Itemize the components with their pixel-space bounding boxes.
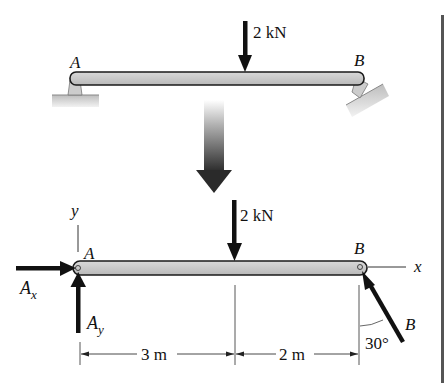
page-edge-bar — [441, 15, 444, 383]
axis-y-label: y — [69, 201, 79, 220]
top-beam — [70, 72, 364, 85]
axis-x-label: x — [413, 257, 422, 276]
reaction-ay-arrow-icon — [71, 272, 87, 333]
reaction-b-label: B — [405, 315, 416, 334]
bottom-diagram: y x A B 2 kN Ax — [16, 200, 422, 365]
bottom-load-label: 2 kN — [240, 206, 274, 225]
reaction-ay-label: Ay — [86, 313, 104, 337]
reaction-b-arrow-icon — [362, 271, 403, 342]
top-label-a: A — [69, 53, 81, 72]
reaction-ax-arrow-icon — [16, 261, 76, 276]
transition-down-arrow-icon — [196, 100, 232, 193]
dimension-3m: 3 m — [81, 345, 234, 364]
beam-free-body-diagram: 2 kN A B y x A B — [0, 0, 447, 383]
top-load-arrow-icon — [238, 21, 252, 72]
angle-label: 30° — [365, 334, 389, 353]
bottom-label-b: B — [354, 239, 365, 258]
dimension-2m-label: 2 m — [279, 345, 305, 364]
bottom-label-a: A — [83, 244, 95, 263]
dimension-2m: 2 m — [236, 345, 358, 364]
dimension-3m-label: 3 m — [141, 345, 167, 364]
reaction-ax-label: Ax — [19, 278, 37, 302]
top-load-label: 2 kN — [253, 23, 287, 42]
top-label-b: B — [354, 51, 365, 70]
bottom-beam — [73, 261, 367, 275]
